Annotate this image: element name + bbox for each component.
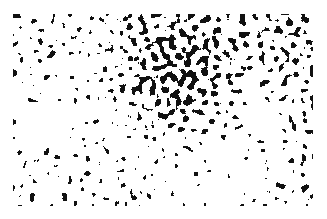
image-description: Black and white labyrinthine / spinodal-… xyxy=(0,0,1,1)
noise-pattern-image xyxy=(13,14,313,206)
image-frame: Black and white labyrinthine / spinodal-… xyxy=(0,0,327,219)
